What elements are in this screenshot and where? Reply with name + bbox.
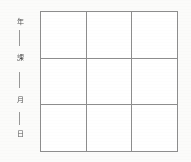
grid-cell[interactable] xyxy=(132,12,178,59)
grid-cell[interactable] xyxy=(132,105,178,152)
margin-tick-2 xyxy=(19,72,20,88)
grid-cell[interactable] xyxy=(132,58,178,105)
form-grid-table xyxy=(40,11,178,152)
scanned-page: 年 課 月 日 xyxy=(0,0,191,162)
margin-tick-1 xyxy=(19,30,20,46)
form-grid-body xyxy=(41,12,178,152)
margin-label-year: 年 xyxy=(0,18,40,26)
grid-cell[interactable] xyxy=(41,58,87,105)
table-row xyxy=(41,12,178,59)
grid-cell[interactable] xyxy=(86,105,132,152)
margin-label-day: 日 xyxy=(0,130,40,138)
grid-cell[interactable] xyxy=(86,58,132,105)
grid-cell[interactable] xyxy=(41,12,87,59)
grid-cell[interactable] xyxy=(86,12,132,59)
margin-label-section: 課 xyxy=(0,54,40,62)
margin-tick-3 xyxy=(19,112,20,125)
margin-label-column: 年 課 月 日 xyxy=(0,0,40,162)
grid-cell[interactable] xyxy=(41,105,87,152)
margin-label-month: 月 xyxy=(0,96,40,104)
table-row xyxy=(41,58,178,105)
table-row xyxy=(41,105,178,152)
